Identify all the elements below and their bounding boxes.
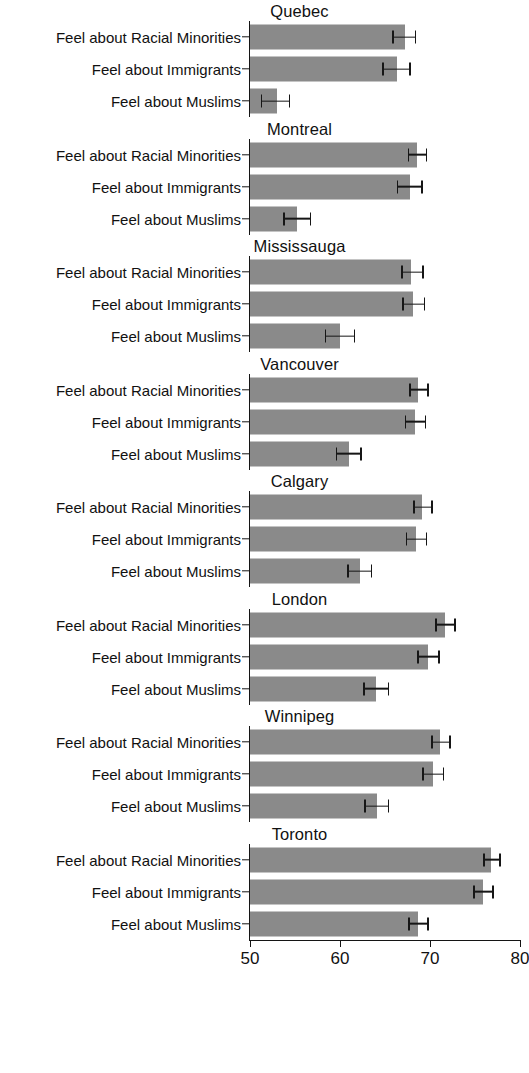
- error-bar-cap-high: [499, 853, 501, 866]
- category-label: Feel about Immigrants: [92, 296, 241, 313]
- error-bar-cap-low: [417, 650, 419, 663]
- error-bar-line: [435, 624, 456, 626]
- bar: [250, 847, 491, 872]
- error-bar: [417, 650, 440, 663]
- error-bar-cap-low: [422, 768, 424, 781]
- panel-title: Calgary: [0, 472, 527, 491]
- error-bar-line: [325, 335, 356, 337]
- bar-row: Feel about Racial Minorities: [0, 844, 527, 876]
- y-axis-tick: [242, 506, 249, 507]
- category-label: Feel about Racial Minorities: [56, 851, 241, 868]
- panel-title: Toronto: [0, 825, 527, 844]
- error-bar: [382, 63, 411, 76]
- error-bar: [363, 682, 389, 695]
- y-axis-tick: [242, 100, 249, 101]
- bar-row: Feel about Muslims: [0, 203, 527, 235]
- error-bar-cap-low: [347, 565, 349, 578]
- error-bar: [413, 501, 433, 514]
- category-label: Feel about Immigrants: [92, 883, 241, 900]
- error-bar-cap-high: [354, 330, 356, 343]
- category-label: Feel about Muslims: [111, 210, 241, 227]
- bar: [250, 260, 411, 285]
- category-label: Feel about Muslims: [111, 680, 241, 697]
- panel-winnipeg: WinnipegFeel about Racial MinoritiesFeel…: [0, 707, 527, 822]
- error-bar-line: [364, 805, 389, 807]
- bar: [250, 794, 377, 819]
- y-axis-tick: [242, 218, 249, 219]
- error-bar: [325, 330, 356, 343]
- bar: [250, 409, 415, 434]
- panel-title-text: Vancouver: [260, 355, 339, 373]
- x-axis-tick-label: 60: [331, 949, 350, 969]
- error-bar-line: [363, 688, 389, 690]
- panel-montreal: MontrealFeel about Racial MinoritiesFeel…: [0, 120, 527, 235]
- error-bar-cap-high: [388, 800, 390, 813]
- error-bar-line: [473, 891, 494, 893]
- panel-title-text: Winnipeg: [265, 707, 335, 725]
- error-bar: [408, 917, 429, 930]
- error-bar-line: [409, 389, 429, 391]
- category-label: Feel about Muslims: [111, 93, 241, 110]
- category-label: Feel about Immigrants: [92, 531, 241, 548]
- bar: [250, 730, 440, 755]
- bar: [250, 25, 405, 50]
- error-bar-cap-high: [421, 180, 423, 193]
- error-bar-cap-high: [443, 768, 445, 781]
- error-bar-line: [417, 656, 440, 658]
- bar-row: Feel about Racial Minorities: [0, 21, 527, 53]
- error-bar-cap-low: [409, 383, 411, 396]
- plot-area: Feel about Racial MinoritiesFeel about I…: [0, 256, 527, 352]
- error-bar-cap-low: [413, 501, 415, 514]
- error-bar-line: [402, 303, 425, 305]
- y-axis-tick: [242, 421, 249, 422]
- bar-row: Feel about Muslims: [0, 438, 527, 470]
- error-bar-cap-low: [325, 330, 327, 343]
- error-bar-cap-high: [454, 618, 456, 631]
- error-bar-line: [413, 506, 433, 508]
- error-bar-cap-low: [431, 736, 433, 749]
- plot-area: Feel about Racial MinoritiesFeel about I…: [0, 726, 527, 822]
- panel-mississauga: MississaugaFeel about Racial MinoritiesF…: [0, 237, 527, 352]
- error-bar-cap-high: [426, 533, 428, 546]
- x-axis-tick: [430, 940, 431, 947]
- error-bar: [483, 853, 501, 866]
- error-bar: [473, 885, 494, 898]
- category-label: Feel about Racial Minorities: [56, 499, 241, 516]
- y-axis-tick: [242, 389, 249, 390]
- plot-area: Feel about Racial MinoritiesFeel about I…: [0, 844, 527, 940]
- category-label: Feel about Immigrants: [92, 61, 241, 78]
- bar: [250, 676, 376, 701]
- error-bar-cap-high: [310, 212, 312, 225]
- panel-title-text: Mississauga: [254, 237, 346, 255]
- error-bar-cap-low: [397, 180, 399, 193]
- error-bar-line: [408, 923, 429, 925]
- error-bar-cap-low: [408, 148, 410, 161]
- bar: [250, 292, 413, 317]
- bar: [250, 644, 428, 669]
- y-axis-tick: [242, 891, 249, 892]
- panel-title: Vancouver: [0, 355, 527, 374]
- error-bar-line: [422, 773, 445, 775]
- error-bar-line: [397, 186, 423, 188]
- x-axis-tick: [250, 940, 251, 947]
- error-bar: [401, 266, 424, 279]
- plot-area: Feel about Racial MinoritiesFeel about I…: [0, 609, 527, 705]
- error-bar-cap-low: [261, 95, 263, 108]
- y-axis-tick: [242, 624, 249, 625]
- error-bar-cap-high: [422, 266, 424, 279]
- y-axis-tick: [242, 154, 249, 155]
- panel-title: London: [0, 590, 527, 609]
- panel-vancouver: VancouverFeel about Racial MinoritiesFee…: [0, 355, 527, 470]
- error-bar-cap-high: [415, 31, 417, 44]
- error-bar-line: [283, 218, 311, 220]
- error-bar-cap-high: [492, 885, 494, 898]
- error-bar-cap-low: [283, 212, 285, 225]
- y-axis-tick: [242, 303, 249, 304]
- bar: [250, 879, 483, 904]
- bar-row: Feel about Immigrants: [0, 288, 527, 320]
- error-bar: [347, 565, 372, 578]
- y-axis-tick: [242, 570, 249, 571]
- error-bar-line: [382, 68, 411, 70]
- error-bar-line: [405, 421, 427, 423]
- category-label: Feel about Muslims: [111, 798, 241, 815]
